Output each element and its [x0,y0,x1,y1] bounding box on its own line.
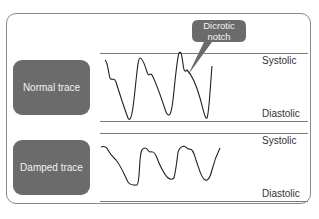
traces-graphic [0,0,319,219]
damped-trace-waveform [101,146,220,185]
callout-text: Dicrotic notch [194,20,244,42]
callout-line-1: Dicrotic [194,20,244,31]
callout-line-2: notch [194,31,244,42]
